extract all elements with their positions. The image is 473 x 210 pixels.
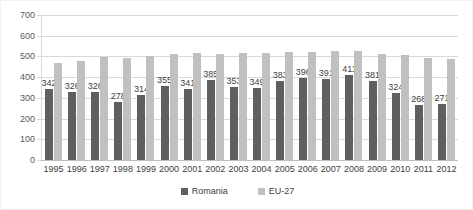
bar-romania: 349: [253, 88, 261, 160]
bar-eu27: [216, 54, 224, 160]
legend-label: Romania: [192, 187, 228, 196]
y-axis-tick: [37, 98, 41, 99]
bar-chart: 0100200300400500600700 34232632627831435…: [0, 0, 473, 210]
bar-group: 381: [366, 15, 389, 160]
y-axis-tick: [37, 36, 41, 37]
bar-eu27: [193, 53, 201, 160]
x-axis-tick-label: 1997: [88, 164, 111, 174]
x-axis-tick-label: 2007: [319, 164, 342, 174]
y-axis-tick-label: 400: [20, 73, 35, 82]
x-axis-tick-label: 2010: [389, 164, 412, 174]
bar-eu27: [401, 55, 409, 160]
x-axis-tick-label: 2001: [181, 164, 204, 174]
y-axis-tick: [37, 77, 41, 78]
x-axis-labels: 1995199619971998199920002001200220032004…: [42, 164, 458, 174]
y-axis-tick: [37, 119, 41, 120]
y-axis-tick-label: 500: [20, 52, 35, 61]
bar-romania: 326: [91, 92, 99, 160]
bar-eu27: [239, 53, 247, 160]
bar-group: 314: [134, 15, 157, 160]
bar-group: 268: [412, 15, 435, 160]
bar-romania: 324: [392, 93, 400, 160]
x-axis-tick-label: 2000: [158, 164, 181, 174]
bar-romania: 314: [137, 95, 145, 160]
y-axis-tick-label: 0: [30, 156, 35, 165]
x-axis-tick-label: 2012: [435, 164, 458, 174]
bar-eu27: [170, 54, 178, 160]
bar-romania: 396: [299, 78, 307, 160]
bar-group: 355: [158, 15, 181, 160]
bar-group: 326: [65, 15, 88, 160]
bar-group: 324: [389, 15, 412, 160]
bar-romania: 385: [207, 80, 215, 160]
bar-group: 385: [204, 15, 227, 160]
y-axis-labels: 0100200300400500600700: [1, 15, 37, 161]
bar-eu27: [378, 54, 386, 160]
bar-group: 383: [273, 15, 296, 160]
x-axis-tick-label: 2005: [273, 164, 296, 174]
bar-group: 411: [342, 15, 365, 160]
x-axis-line: [41, 160, 458, 161]
bar-romania: 271: [438, 104, 446, 160]
x-axis-tick-label: 2006: [296, 164, 319, 174]
chart-legend: RomaniaEU-27: [1, 187, 473, 196]
bar-eu27: [54, 63, 62, 160]
y-axis-tick-label: 100: [20, 135, 35, 144]
bar-eu27: [123, 58, 131, 160]
bar-eu27: [331, 51, 339, 160]
y-axis-tick-label: 200: [20, 114, 35, 123]
x-axis-tick-label: 1999: [134, 164, 157, 174]
bar-group: 271: [435, 15, 458, 160]
y-axis-tick: [37, 15, 41, 16]
x-axis-tick-label: 1998: [111, 164, 134, 174]
y-axis-tick-label: 600: [20, 31, 35, 40]
y-axis-tick-label: 700: [20, 11, 35, 20]
bar-eu27: [100, 57, 108, 160]
legend-item[interactable]: Romania: [181, 187, 228, 196]
bar-group: 349: [250, 15, 273, 160]
bar-romania: 353: [230, 87, 238, 160]
x-axis-tick-label: 2011: [412, 164, 435, 174]
bar-group: 341: [181, 15, 204, 160]
bar-group: 396: [296, 15, 319, 160]
legend-label: EU-27: [269, 187, 295, 196]
x-axis-tick-label: 2004: [250, 164, 273, 174]
x-axis-tick-label: 2009: [366, 164, 389, 174]
bar-eu27: [262, 53, 270, 161]
bar-romania: 381: [369, 81, 377, 160]
bar-group: 391: [319, 15, 342, 160]
y-axis-tick: [37, 160, 41, 161]
bar-romania: 355: [161, 86, 169, 160]
bar-romania: 268: [415, 105, 423, 161]
y-axis-tick: [37, 56, 41, 57]
y-axis-tick-label: 300: [20, 93, 35, 102]
x-axis-tick-label: 1996: [65, 164, 88, 174]
bar-eu27: [308, 52, 316, 160]
bar-romania: 391: [322, 79, 330, 160]
x-axis-tick-label: 2003: [227, 164, 250, 174]
bar-romania: 278: [114, 102, 122, 160]
bar-group: 353: [227, 15, 250, 160]
bar-eu27: [447, 59, 455, 161]
bar-romania: 342: [45, 89, 53, 160]
bar-eu27: [354, 51, 362, 160]
bar-eu27: [424, 58, 432, 160]
legend-swatch-icon: [181, 188, 188, 195]
bar-group: 326: [88, 15, 111, 160]
x-axis-tick-label: 2002: [204, 164, 227, 174]
bar-romania: 326: [68, 92, 76, 160]
bar-eu27: [77, 61, 85, 160]
bar-group: 342: [42, 15, 65, 160]
legend-swatch-icon: [258, 188, 265, 195]
x-axis-tick-label: 1995: [42, 164, 65, 174]
y-axis-tick: [37, 139, 41, 140]
plot-area: 3423263262783143553413853533493833963914…: [41, 15, 458, 161]
bar-romania: 383: [276, 81, 284, 160]
x-axis-tick-label: 2008: [342, 164, 365, 174]
bar-romania: 341: [184, 89, 192, 160]
bar-groups: 3423263262783143553413853533493833963914…: [42, 15, 458, 160]
bar-romania: 411: [345, 75, 353, 160]
bar-eu27: [146, 56, 154, 160]
legend-item[interactable]: EU-27: [258, 187, 295, 196]
bar-group: 278: [111, 15, 134, 160]
